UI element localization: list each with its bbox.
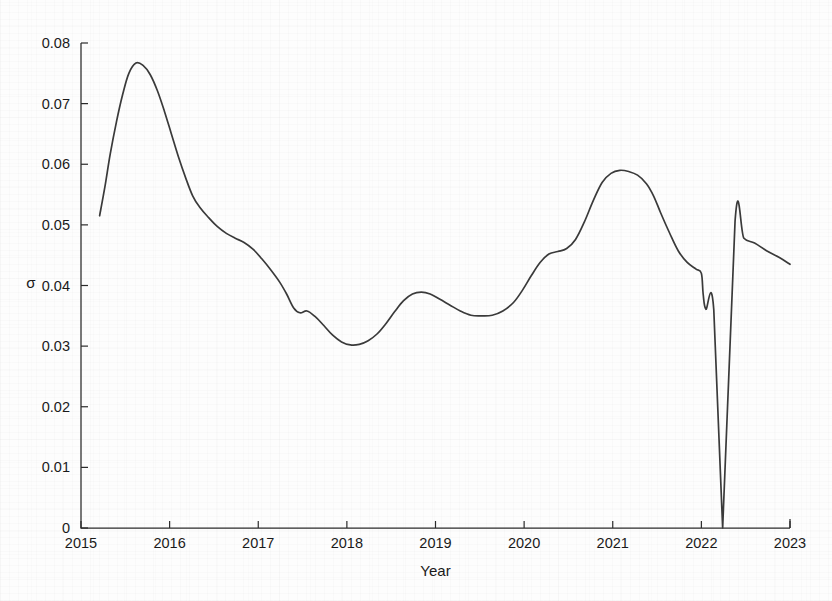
series-line-sigma xyxy=(100,62,790,528)
x-tick-label: 2016 xyxy=(153,535,185,551)
x-tick-label: 2019 xyxy=(419,535,451,551)
y-tick-label: 0.06 xyxy=(42,156,70,172)
y-tick-label: 0.04 xyxy=(42,278,70,294)
x-axis-tick-labels: 201520162017201820192020202120222023 xyxy=(65,535,806,551)
y-tick-label: 0.02 xyxy=(42,399,70,415)
x-tick-label: 2015 xyxy=(65,535,97,551)
y-axis-title: σ xyxy=(26,274,36,291)
figure-canvas: 201520162017201820192020202120222023 00.… xyxy=(0,0,832,601)
y-tick-label: 0.01 xyxy=(42,459,70,475)
x-tick-label: 2021 xyxy=(597,535,629,551)
data-group xyxy=(100,62,790,528)
x-tick-label: 2018 xyxy=(331,535,363,551)
x-axis-title: Year xyxy=(420,562,450,579)
x-tick-label: 2017 xyxy=(242,535,274,551)
y-tick-label: 0.08 xyxy=(42,35,70,51)
y-axis-ticks xyxy=(81,43,88,528)
y-tick-label: 0 xyxy=(62,520,70,536)
x-tick-label: 2023 xyxy=(774,535,806,551)
y-tick-label: 0.03 xyxy=(42,338,70,354)
line-chart: 201520162017201820192020202120222023 00.… xyxy=(0,0,832,601)
y-tick-label: 0.07 xyxy=(42,96,70,112)
y-tick-label: 0.05 xyxy=(42,217,70,233)
y-axis-tick-labels: 00.010.020.030.040.050.060.070.08 xyxy=(42,35,70,536)
x-tick-label: 2020 xyxy=(508,535,540,551)
x-axis-ticks xyxy=(81,521,790,528)
axis-spines xyxy=(81,43,790,528)
x-tick-label: 2022 xyxy=(685,535,717,551)
